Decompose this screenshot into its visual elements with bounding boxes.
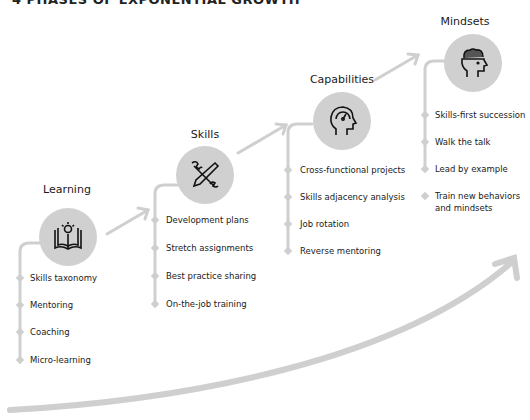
stage-circle-skills — [176, 146, 234, 204]
stage-circle-mindsets — [444, 34, 502, 92]
list-item: Cross-functional projects — [300, 164, 405, 177]
list-item: Lead by example — [435, 163, 508, 176]
list-item: Reverse mentoring — [300, 245, 381, 258]
wrench-pencil-icon — [188, 158, 222, 192]
stage-title-mindsets: Mindsets — [410, 15, 520, 28]
stage-circle-learning — [39, 208, 97, 266]
head-brain-icon — [456, 46, 490, 80]
list-item: Skills adjacency analysis — [300, 191, 405, 204]
list-item: Job rotation — [300, 218, 349, 231]
list-item: Coaching — [30, 326, 70, 339]
stage-title-skills: Skills — [150, 128, 260, 141]
list-item: On-the-job training — [166, 298, 247, 311]
list-item: Development plans — [166, 214, 249, 227]
head-gauge-icon — [325, 104, 359, 138]
list-item: Best practice sharing — [166, 270, 256, 283]
list-item: Mentoring — [30, 299, 73, 312]
list-item: Skills-first succession — [435, 109, 525, 122]
list-item: Walk the talk — [435, 136, 491, 149]
list-item: Skills taxonomy — [30, 272, 97, 285]
list-item: Micro-learning — [30, 354, 91, 367]
stage-circle-capabilities — [313, 92, 371, 150]
stage-title-learning: Learning — [12, 183, 122, 196]
open-book-lightbulb-icon — [51, 220, 85, 254]
stage-title-capabilities: Capabilities — [287, 73, 397, 86]
list-item-continuation: and mindsets — [435, 202, 493, 215]
list-item: Stretch assignments — [166, 242, 253, 255]
